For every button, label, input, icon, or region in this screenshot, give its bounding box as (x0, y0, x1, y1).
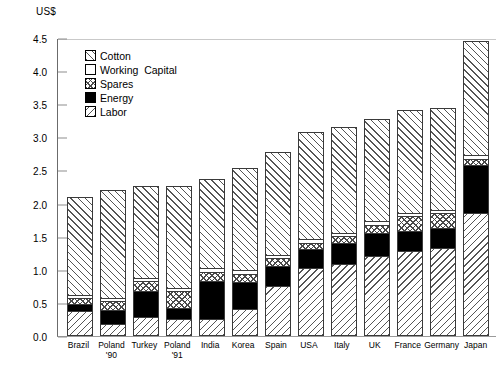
bar-segment-labor (68, 312, 92, 335)
legend-label: Working Capital (100, 64, 177, 76)
bar-segment-cotton (68, 198, 92, 296)
bar-segment-labor (266, 287, 290, 335)
y-tick-label: 4.0 (33, 67, 47, 78)
legend-label: Cotton (100, 50, 131, 62)
x-axis-labels: BrazilPoland'90TurkeyPoland'91IndiaKorea… (57, 340, 496, 360)
bar-uk[interactable] (364, 119, 390, 336)
stacked-bar-chart: US$ 0.00.51.01.52.02.53.03.54.04.5 Brazi… (0, 0, 503, 373)
bar-segment-cotton (365, 120, 389, 223)
legend-item-cotton[interactable]: Cotton (85, 49, 177, 62)
bar-segment-spares (266, 259, 290, 268)
bar-segment-labor (101, 325, 125, 335)
bar-segment-cotton (167, 187, 191, 289)
bar-poland-90[interactable] (100, 190, 126, 336)
bar-brazil[interactable] (67, 197, 93, 336)
bar-slot (327, 39, 360, 336)
bar-slot (294, 39, 327, 336)
bar-slot (459, 39, 492, 336)
bar-segment-labor (233, 310, 257, 335)
legend-label: Spares (100, 78, 133, 90)
y-tick-label: 0.5 (33, 298, 47, 309)
bar-segment-energy (101, 311, 125, 326)
bar-france[interactable] (397, 110, 423, 336)
x-axis-label-india: India (194, 340, 227, 360)
x-axis-label-spain: Spain (260, 340, 293, 360)
bar-segment-cotton (101, 191, 125, 299)
bar-slot (195, 39, 228, 336)
x-axis-label-korea: Korea (227, 340, 260, 360)
bar-korea[interactable] (232, 168, 258, 336)
bar-segment-labor (167, 320, 191, 335)
bar-segment-energy (332, 244, 356, 266)
x-axis-label-usa: USA (292, 340, 325, 360)
bar-poland-91[interactable] (166, 186, 192, 336)
bar-segment-spares (233, 275, 257, 283)
bar-segment-spares (68, 299, 92, 306)
y-tick-label: 3.5 (33, 100, 47, 111)
bar-slot (426, 39, 459, 336)
y-tick-label: 2.0 (33, 199, 47, 210)
bar-slot (228, 39, 261, 336)
bar-segment-spares (464, 160, 488, 167)
bar-segment-spares (365, 226, 389, 235)
bar-segment-energy (68, 305, 92, 312)
bar-segment-cotton (200, 180, 224, 269)
legend-item-labor[interactable]: Labor (85, 105, 177, 118)
bar-usa[interactable] (298, 132, 324, 336)
x-axis-label-turkey: Turkey (128, 340, 161, 360)
bar-segment-labor (200, 320, 224, 335)
x-axis-label-japan: Japan (459, 340, 492, 360)
legend-label: Labor (100, 106, 127, 118)
legend-swatch-icon (85, 92, 96, 103)
legend-swatch-icon (85, 64, 96, 75)
bar-segment-cotton (299, 133, 323, 240)
bar-segment-energy (464, 166, 488, 214)
bar-segment-spares (398, 217, 422, 232)
x-axis-label-italy: Italy (325, 340, 358, 360)
bar-segment-cotton (398, 111, 422, 214)
bar-segment-energy (266, 267, 290, 287)
bar-segment-labor (332, 265, 356, 335)
legend-item-working-capital[interactable]: Working Capital (85, 63, 177, 76)
bar-segment-energy (134, 292, 158, 318)
bar-segment-cotton (431, 109, 455, 211)
y-tick-label: 1.5 (33, 232, 47, 243)
bar-slot (393, 39, 426, 336)
legend-label: Energy (100, 92, 133, 104)
chart-legend: CottonWorking CapitalSparesEnergyLabor (85, 49, 177, 118)
bar-segment-spares (332, 237, 356, 244)
bar-segment-energy (398, 232, 422, 252)
bar-segment-labor (464, 214, 488, 335)
legend-item-spares[interactable]: Spares (85, 77, 177, 90)
y-tick-mark (58, 337, 67, 338)
bar-segment-labor (398, 252, 422, 335)
bar-segment-cotton (464, 42, 488, 156)
bar-segment-energy (200, 282, 224, 320)
legend-swatch-icon (85, 78, 96, 89)
bar-segment-labor (365, 257, 389, 335)
bar-segment-energy (299, 250, 323, 269)
bar-turkey[interactable] (133, 186, 159, 336)
legend-item-energy[interactable]: Energy (85, 91, 177, 104)
bar-slot (261, 39, 294, 336)
x-axis-label-france: France (391, 340, 424, 360)
bar-segment-labor (299, 269, 323, 335)
bar-segment-spares (431, 214, 455, 229)
legend-swatch-icon (85, 50, 96, 61)
y-tick-label: 4.5 (33, 34, 47, 45)
bar-segment-spares (101, 302, 125, 311)
bar-segment-spares (167, 292, 191, 309)
x-axis-label-poland-90: Poland'90 (95, 340, 128, 360)
bar-spain[interactable] (265, 152, 291, 336)
bar-segment-spares (200, 273, 224, 282)
x-axis-label-uk: UK (358, 340, 391, 360)
x-axis-label-germany: Germany (424, 340, 459, 360)
bar-germany[interactable] (430, 108, 456, 336)
bar-japan[interactable] (463, 41, 489, 336)
bar-italy[interactable] (331, 127, 357, 336)
bar-segment-spares (299, 244, 323, 251)
y-tick-label: 3.0 (33, 133, 47, 144)
bar-india[interactable] (199, 179, 225, 336)
x-axis-label-poland-91: Poland'91 (161, 340, 194, 360)
bar-segment-cotton (134, 187, 158, 279)
